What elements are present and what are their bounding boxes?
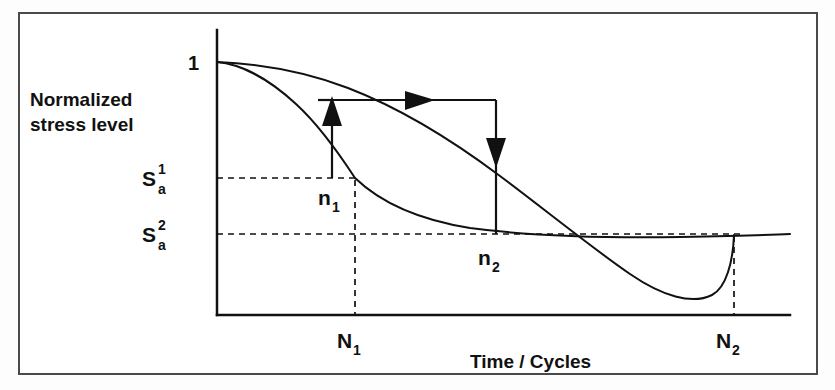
x-axis-title: Time / Cycles xyxy=(470,351,591,372)
figure-root: Normalized stress level 1 S 1 a S 2 a N … xyxy=(0,0,835,390)
x-tick-label-n1-subscript: 1 xyxy=(353,342,361,358)
y-axis-title-line1: Normalized xyxy=(30,89,132,110)
y-tick-label-sa2-base: S xyxy=(142,223,156,246)
annotation-n1-subscript: 1 xyxy=(332,199,340,215)
x-tick-label-n2-subscript: 2 xyxy=(732,342,740,358)
y-tick-label-sa1-base: S xyxy=(142,167,156,190)
x-tick-label-n2-base: N xyxy=(716,329,731,352)
right-arrow-head-icon xyxy=(405,91,435,110)
y-tick-label-sa2-subscript: a xyxy=(158,237,166,253)
curve-lower-sa1 xyxy=(217,62,790,237)
y-tick-label-sa1-subscript: a xyxy=(158,181,166,197)
curve-upper-sa2 xyxy=(217,62,734,299)
annotation-n1-base: n xyxy=(318,186,331,209)
y-axis-title-line2: stress level xyxy=(30,114,134,135)
annotation-n2-subscript: 2 xyxy=(492,259,500,275)
y-tick-label-sa1-superscript: 1 xyxy=(158,161,166,177)
y-tick-label-one: 1 xyxy=(188,52,199,74)
annotation-n2-base: n xyxy=(478,246,491,269)
chart-canvas: Normalized stress level 1 S 1 a S 2 a N … xyxy=(0,0,835,390)
down-arrow-head-icon xyxy=(486,138,506,168)
x-tick-label-n1-base: N xyxy=(337,329,352,352)
y-tick-label-sa2-superscript: 2 xyxy=(158,217,166,233)
